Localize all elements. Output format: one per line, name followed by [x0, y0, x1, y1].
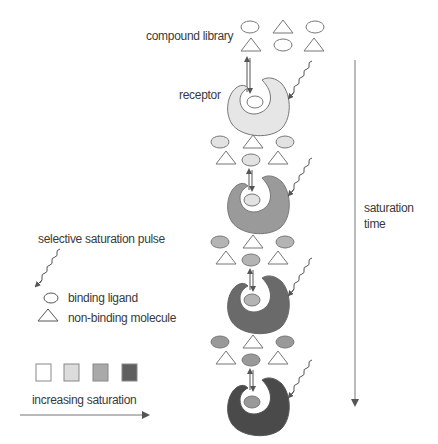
- exchange-arrows: [250, 370, 253, 390]
- saturation-pulse-icon: [289, 360, 312, 397]
- legend: [20, 249, 148, 415]
- receptor: [228, 378, 290, 436]
- non-binding-molecule-icon: [241, 38, 261, 51]
- binding-ligand-icon: [276, 236, 294, 248]
- saturation-pulse-icon: [289, 258, 312, 295]
- binding-ligand-icon: [211, 336, 229, 348]
- non-binding-molecule-icon: [268, 351, 288, 364]
- stage-3: [211, 235, 312, 334]
- binding-ligand-icon: [241, 21, 259, 33]
- saturation-scale: [36, 364, 137, 381]
- binding-ligand-icon: [211, 136, 229, 148]
- non-binding-molecule-icon: [216, 351, 236, 364]
- non-binding-molecule-icon: [268, 151, 288, 164]
- binding-ligand-icon: [242, 154, 260, 166]
- binding-ligand-icon: [276, 136, 294, 148]
- receptor-label: receptor: [179, 88, 221, 102]
- exchange-arrows: [249, 170, 252, 190]
- bound-ligand: [244, 294, 260, 306]
- bound-ligand: [244, 194, 260, 206]
- saturation-swatch-3: [122, 364, 137, 381]
- saturation-time-label-2: time: [364, 217, 385, 231]
- saturation-swatch-1: [64, 364, 79, 381]
- exchange-arrows: [250, 270, 253, 290]
- saturation-time-label-1: saturation: [364, 201, 414, 215]
- saturation-swatch-2: [93, 364, 108, 381]
- binding-ligand-label: binding ligand: [68, 291, 138, 305]
- receptor: [228, 78, 290, 136]
- compound-library: [211, 135, 294, 166]
- non-binding-label: non-binding molecule: [68, 311, 176, 325]
- non-binding-molecule-icon: [273, 20, 293, 33]
- binding-ligand-icon: [274, 39, 292, 51]
- binding-ligand-icon: [276, 336, 294, 348]
- saturation-pulse-icon: [289, 158, 312, 195]
- compound-library-label: compound library: [146, 29, 233, 43]
- non-binding-molecule-icon: [304, 38, 324, 51]
- non-binding-molecule-icon: [216, 251, 236, 264]
- legend-binding-ligand-icon: [44, 293, 58, 303]
- non-binding-molecule-icon: [243, 335, 263, 348]
- legend-non-binding-icon: [38, 309, 58, 321]
- non-binding-molecule-icon: [268, 251, 288, 264]
- saturation-swatch-0: [36, 364, 51, 381]
- stage-4: [211, 335, 312, 436]
- increasing-saturation-label: increasing saturation: [32, 393, 136, 407]
- receptor: [228, 276, 290, 334]
- compound-library: [211, 335, 294, 366]
- saturation-pulse-icon: [289, 61, 312, 98]
- selective-pulse-label: selective saturation pulse: [38, 232, 165, 246]
- non-binding-molecule-icon: [216, 151, 236, 164]
- binding-ligand-icon: [211, 236, 229, 248]
- binding-ligand-icon: [306, 21, 324, 33]
- compound-library: [241, 20, 324, 51]
- binding-ligand-icon: [242, 354, 260, 366]
- compound-library: [211, 235, 294, 266]
- bound-ligand: [244, 396, 260, 408]
- non-binding-molecule-icon: [243, 135, 263, 148]
- stage-2: [211, 135, 312, 234]
- legend-pulse-icon: [36, 249, 60, 286]
- stage-1: [228, 20, 324, 136]
- receptor: [228, 176, 290, 234]
- bound-ligand: [247, 96, 263, 108]
- binding-ligand-icon: [242, 254, 260, 266]
- non-binding-molecule-icon: [243, 235, 263, 248]
